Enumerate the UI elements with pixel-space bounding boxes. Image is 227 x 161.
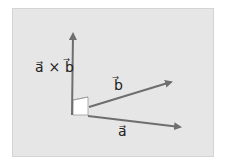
cross-product-label: a⃗ × b⃗ [35,60,74,74]
vector-b-arrow [89,82,171,107]
vector-b-label: b⃗ [114,78,123,92]
vector-a-label: a⃗ [118,124,127,138]
right-angle-marker [73,97,88,115]
vector-a-arrow [88,116,180,127]
